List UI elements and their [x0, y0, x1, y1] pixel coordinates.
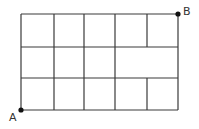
- point-a-dot: [18, 107, 23, 112]
- point-b-dot: [175, 11, 180, 16]
- point-a-label: A: [9, 112, 17, 123]
- point-b-label: B: [183, 6, 191, 17]
- grid-diagram: [0, 0, 199, 129]
